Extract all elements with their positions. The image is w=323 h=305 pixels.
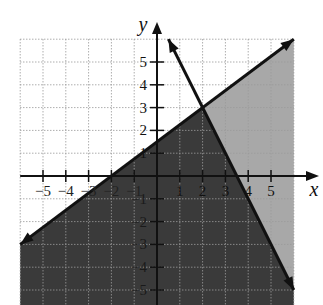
y-tick-label: 1 (140, 145, 148, 161)
y-tick-label: −2 (131, 214, 147, 230)
x-axis-label: x (309, 178, 319, 200)
x-tick-label: −5 (35, 183, 51, 199)
y-tick-label: −1 (131, 191, 147, 207)
x-tick-label: 5 (267, 183, 275, 199)
arrowhead-icon (168, 39, 178, 53)
y-axis-arrow-icon (152, 22, 162, 34)
x-tick-label: −2 (103, 183, 119, 199)
y-tick-label: 5 (140, 54, 148, 70)
y-tick-label: 2 (140, 122, 148, 138)
y-tick-label: −4 (131, 259, 147, 275)
x-tick-label: 4 (244, 183, 252, 199)
x-tick-label: 1 (176, 183, 184, 199)
x-tick-label: 3 (222, 183, 230, 199)
y-axis-label: y (137, 13, 148, 36)
x-tick-label: −4 (58, 183, 74, 199)
x-tick-label: −3 (81, 183, 97, 199)
y-tick-label: 3 (140, 100, 148, 116)
y-tick-label: −5 (131, 282, 147, 298)
x-tick-label: 2 (199, 183, 207, 199)
y-tick-label: −3 (131, 236, 147, 252)
inequality-graph: −5−4−3−2−11234554321−1−2−3−4−5xy (0, 0, 323, 305)
y-tick-label: 4 (140, 77, 148, 93)
